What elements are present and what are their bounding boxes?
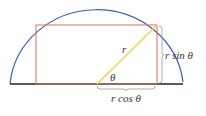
semicircle-diagram: r θ r sin θ r cos θ [0, 0, 206, 116]
vertical-label: r sin θ [165, 49, 194, 61]
horizontal-label: r cos θ [111, 92, 141, 104]
horizontal-brace [97, 86, 155, 91]
radius-label: r [122, 43, 127, 55]
angle-label: θ [110, 71, 116, 83]
inscribed-rectangle [36, 25, 157, 84]
radius-line [97, 25, 157, 84]
